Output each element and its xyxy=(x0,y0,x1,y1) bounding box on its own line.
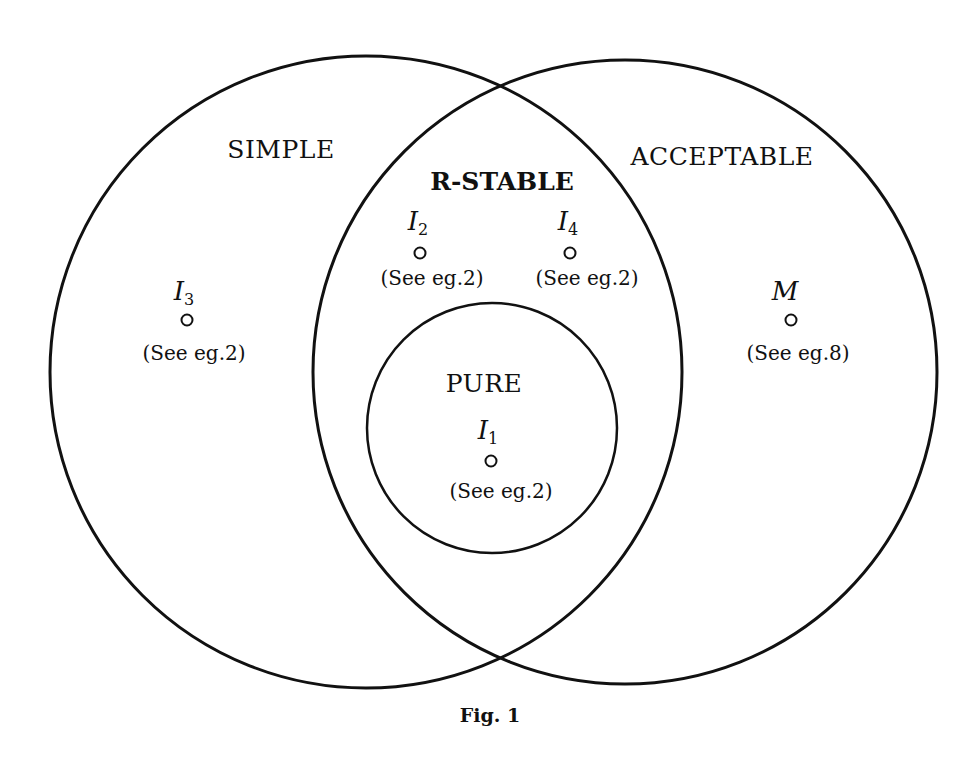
point-i4 xyxy=(565,248,576,259)
set-label-r-stable: R-STABLE xyxy=(430,169,574,194)
figure-caption: Fig. 1 xyxy=(460,706,520,725)
element-i4-label: I4 xyxy=(558,208,578,238)
point-i2 xyxy=(415,248,426,259)
simple-circle xyxy=(50,56,682,688)
venn-diagram: SIMPLE ACCEPTABLE R-STABLE PURE I2 (See … xyxy=(0,0,976,758)
set-label-pure: PURE xyxy=(446,371,523,396)
point-i1 xyxy=(486,456,497,467)
set-label-acceptable: ACCEPTABLE xyxy=(631,144,814,169)
element-i2-ref: (See eg.2) xyxy=(380,268,483,288)
point-m xyxy=(786,315,797,326)
acceptable-circle xyxy=(313,60,937,684)
element-i2-label: I2 xyxy=(408,208,428,238)
element-m-label: M xyxy=(772,278,799,304)
element-i3-ref: (See eg.2) xyxy=(142,343,245,363)
point-i3 xyxy=(182,315,193,326)
element-i3-label: I3 xyxy=(174,278,194,308)
set-label-simple: SIMPLE xyxy=(227,137,334,162)
element-i4-ref: (See eg.2) xyxy=(535,268,638,288)
element-i1-ref: (See eg.2) xyxy=(449,481,552,501)
element-m-ref: (See eg.8) xyxy=(746,343,849,363)
element-i1-label: I1 xyxy=(478,417,498,447)
